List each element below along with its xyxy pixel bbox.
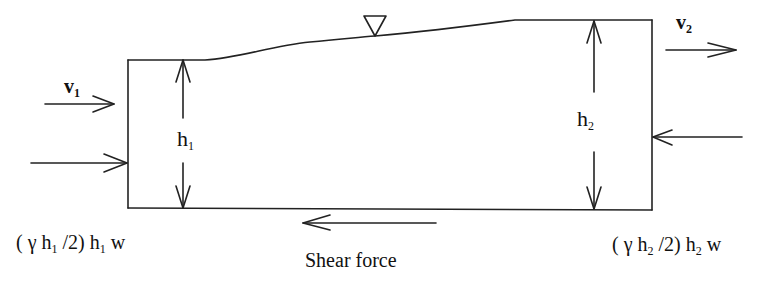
water-surface <box>128 20 652 60</box>
right-pressure-force-arrow-icon <box>653 130 742 145</box>
v2-label: v2 <box>676 12 692 35</box>
h1-label: h1 <box>177 128 194 152</box>
v2-arrow-icon <box>666 43 736 57</box>
shear-force-arrow-icon <box>303 215 436 230</box>
shear-force-label: Shear force <box>305 250 397 270</box>
left-pressure-force-arrow-icon <box>31 154 127 172</box>
h2-label: h2 <box>577 108 594 132</box>
control-volume-bottom <box>128 208 652 210</box>
v1-label: v1 <box>64 76 80 99</box>
right-pressure-force-label: ( γ h2 /2) h2 w <box>612 234 721 257</box>
water-surface-triangle-icon <box>364 16 386 36</box>
left-pressure-force-label: ( γ h1 /2) h1 w <box>16 232 125 255</box>
